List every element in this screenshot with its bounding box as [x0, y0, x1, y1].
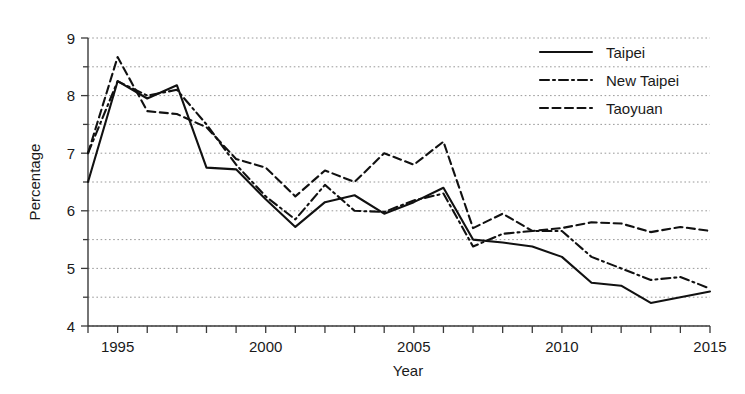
legend-label-taipei: Taipei — [606, 44, 645, 61]
y-tick-label-6: 6 — [67, 202, 75, 219]
y-tick-label-9: 9 — [67, 30, 75, 47]
chart-legend: TaipeiNew TaipeiTaoyuan — [540, 44, 679, 117]
y-tick-label-4: 4 — [67, 318, 75, 335]
y-axis-title: Percentage — [26, 144, 43, 221]
y-tick-labels-group: 456789 — [67, 30, 75, 335]
line-chart-figure: 456789 19952000200520102015 TaipeiNew Ta… — [0, 0, 745, 394]
x-tick-label-2000: 2000 — [249, 338, 282, 355]
data-series-group — [88, 57, 710, 303]
x-tick-marks-group — [88, 326, 710, 333]
x-tick-label-1995: 1995 — [101, 338, 134, 355]
x-tick-labels-group: 19952000200520102015 — [101, 338, 727, 355]
x-tick-label-2005: 2005 — [397, 338, 430, 355]
legend-label-taoyuan: Taoyuan — [606, 100, 663, 117]
y-tick-label-8: 8 — [67, 87, 75, 104]
x-tick-label-2010: 2010 — [545, 338, 578, 355]
y-tick-label-7: 7 — [67, 145, 75, 162]
x-tick-label-2015: 2015 — [693, 338, 726, 355]
x-axis-title: Year — [393, 362, 423, 379]
chart-canvas: 456789 19952000200520102015 TaipeiNew Ta… — [0, 0, 745, 394]
legend-label-new-taipei: New Taipei — [606, 72, 679, 89]
y-tick-label-5: 5 — [67, 260, 75, 277]
